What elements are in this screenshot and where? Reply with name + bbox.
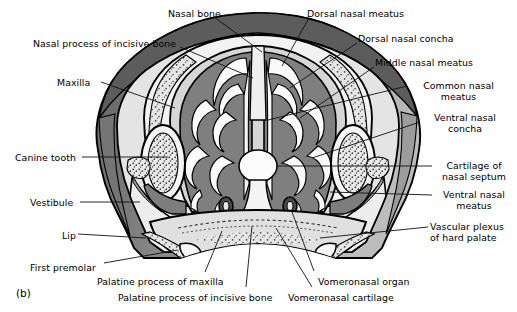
figure-canvas: Nasal bone Nasal process of incisive bon…: [0, 0, 517, 312]
label-cartilage-nasal-septum: Cartilage of nasal septum: [434, 160, 514, 183]
label-palatine-process-maxilla: Palatine process of maxilla: [97, 276, 224, 287]
label-nasal-process-incisive-bone: Nasal process of incisive bone: [33, 38, 176, 49]
label-common-nasal-meatus: Common nasal meatus: [409, 80, 508, 103]
label-vascular-plexus-hard-palate: Vascular plexus of hard palate: [430, 221, 516, 244]
label-first-premolar: First premolar: [30, 262, 96, 273]
label-palatine-process-incisive: Palatine process of incisive bone: [118, 292, 272, 303]
label-vomeronasal-organ: Vomeronasal organ: [318, 276, 410, 287]
label-dorsal-nasal-meatus: Dorsal nasal meatus: [307, 8, 404, 19]
label-maxilla: Maxilla: [57, 77, 90, 88]
label-middle-nasal-meatus: Middle nasal meatus: [375, 57, 473, 68]
label-vomeronasal-cartilage: Vomeronasal cartilage: [288, 292, 394, 303]
label-canine-tooth: Canine tooth: [15, 152, 76, 163]
label-ventral-nasal-meatus: Ventral nasal meatus: [434, 189, 514, 212]
label-nasal-bone: Nasal bone: [168, 8, 221, 19]
label-ventral-nasal-concha: Ventral nasal concha: [420, 112, 510, 135]
figure-caption: (b): [16, 287, 31, 299]
label-vestibule: Vestibule: [30, 197, 73, 208]
label-dorsal-nasal-concha: Dorsal nasal concha: [358, 33, 454, 44]
label-lip: Lip: [62, 230, 76, 241]
